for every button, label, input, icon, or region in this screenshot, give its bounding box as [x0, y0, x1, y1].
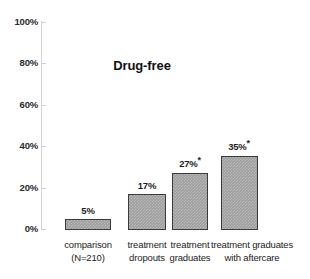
- y-axis-tick-0: [42, 229, 46, 230]
- bar-value-text: 17%: [138, 180, 156, 191]
- bar-value-text: 5%: [81, 205, 94, 216]
- bar-value-treatment-graduates: 27%*: [165, 158, 215, 169]
- y-axis-label-60: 60%: [0, 100, 38, 110]
- bar-treatment-dropouts: [128, 194, 166, 230]
- bar-value-treatment-graduates-with-aftercare: 35%*: [214, 141, 264, 152]
- bar-chart: 100% 80% 60% 40% 20% 0% Drug-free 5% com…: [0, 0, 310, 279]
- bar-value-comparison: 5%: [63, 205, 113, 216]
- y-axis-label-100: 100%: [0, 17, 38, 27]
- y-axis-tick-100: [42, 22, 46, 23]
- category-label-treatment-graduates-with-aftercare: treatment graduates with aftercare: [196, 239, 308, 264]
- bar-value-text: 35%: [228, 141, 246, 152]
- category-label-line2: with aftercare: [196, 252, 308, 265]
- y-axis-label-20: 20%: [0, 183, 38, 193]
- chart-title: Drug-free: [100, 58, 184, 73]
- y-axis-label-0: 0%: [0, 224, 38, 234]
- significance-asterisk: *: [198, 155, 201, 165]
- bar-treatment-graduates: [172, 173, 208, 230]
- bar-value-treatment-dropouts: 17%: [122, 180, 172, 191]
- y-axis-tick-80: [42, 63, 46, 64]
- bar-value-text: 27%: [179, 158, 197, 169]
- y-axis-label-80: 80%: [0, 58, 38, 68]
- y-axis-line: [41, 21, 42, 230]
- bar-treatment-graduates-with-aftercare: [221, 156, 258, 230]
- bar-comparison: [65, 219, 111, 230]
- significance-asterisk: *: [247, 138, 250, 148]
- y-axis-label-40: 40%: [0, 141, 38, 151]
- category-label-line1: treatment graduates: [196, 239, 308, 252]
- y-axis-tick-40: [42, 146, 46, 147]
- y-axis-tick-20: [42, 188, 46, 189]
- y-axis-tick-60: [42, 105, 46, 106]
